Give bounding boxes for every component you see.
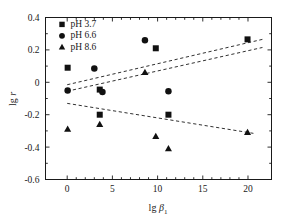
data-point-triangle [96,121,103,127]
data-point-triangle [165,145,172,151]
trendline [67,103,253,133]
x-tick-label: 10 [153,184,163,194]
legend-label: pH 8.6 [71,42,97,52]
data-point-triangle [64,126,71,132]
y-tick-label: -0.6 [24,175,39,185]
legend-marker-triangle [59,44,65,50]
data-point-triangle [141,69,148,75]
data-point-square [153,45,159,51]
data-markers-group [64,36,251,151]
x-axis-title: lg β1 [149,202,168,216]
data-point-circle [91,65,97,71]
data-point-square [65,65,71,71]
x-tick-label: 15 [198,184,208,194]
legend-label: pH 6.6 [71,30,97,40]
y-tick-label: 0 [35,78,40,88]
y-tick-label: 0.2 [28,45,40,55]
data-point-circle [99,89,105,95]
data-point-triangle [152,133,159,139]
legend-marker-circle [59,33,65,39]
legend: pH 3.7pH 6.6pH 8.6 [59,19,97,52]
data-point-circle [165,88,171,94]
x-tick-label: 5 [110,184,115,194]
y-tick-label: 0.4 [28,13,40,23]
data-point-square [165,112,171,118]
data-point-square [97,112,103,118]
trendlines-group [67,39,262,133]
y-axis-tick-labels: 0.40.20-0.2-0.4-0.6 [24,13,39,185]
data-point-square [245,36,251,42]
y-tick-label: -0.4 [24,143,39,153]
x-tick-label: 20 [243,184,253,194]
chart-figure: 05101520 0.40.20-0.2-0.4-0.6 pH 3.7pH 6.… [0,0,283,220]
trendline [67,39,262,84]
legend-label: pH 3.7 [71,19,97,29]
y-axis-title: lg r [7,92,18,106]
data-point-circle [64,87,70,93]
data-point-circle [142,37,148,43]
legend-marker-square [59,22,64,27]
x-axis-tick-labels: 05101520 [65,184,253,194]
x-tick-label: 0 [65,184,70,194]
y-tick-label: -0.2 [24,110,39,120]
scatter-plot: 05101520 0.40.20-0.2-0.4-0.6 pH 3.7pH 6.… [0,0,283,220]
